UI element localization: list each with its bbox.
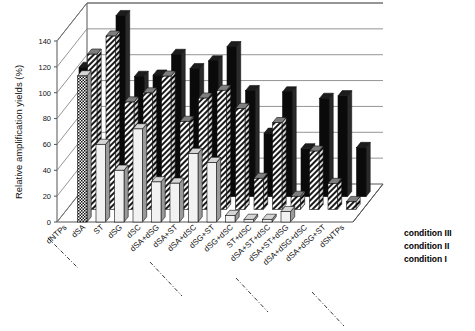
y-tick-labels: 020406080100120140: [38, 37, 57, 227]
leader-line: [236, 278, 268, 312]
bar[interactable]: [207, 157, 221, 222]
gridline-depth: [57, 3, 87, 41]
bar[interactable]: [189, 148, 203, 222]
bar[interactable]: [226, 210, 240, 222]
bar-face: [189, 153, 199, 222]
bar-side: [87, 71, 91, 222]
bar-face: [244, 219, 254, 222]
y-tick-label: 20: [43, 192, 51, 201]
bar-face: [273, 123, 283, 210]
bar[interactable]: [115, 165, 129, 222]
bar[interactable]: [347, 196, 361, 209]
bar-side: [198, 148, 202, 222]
bar[interactable]: [281, 206, 295, 222]
bar-face: [236, 108, 246, 209]
bar[interactable]: [273, 118, 287, 210]
bar-face: [96, 144, 106, 222]
bar-side: [348, 91, 352, 197]
bar-side: [106, 139, 110, 222]
bar[interactable]: [78, 71, 92, 222]
bar-face: [152, 182, 162, 222]
bar-face: [115, 170, 125, 222]
bar-face: [254, 178, 264, 209]
wall-top-edge: [57, 3, 383, 41]
bar-side: [319, 146, 323, 209]
leader-line: [312, 292, 344, 326]
bar-side: [161, 177, 165, 222]
bar-face: [78, 76, 88, 222]
bar-face: [207, 163, 217, 222]
depth-axis-label: condition III: [404, 228, 452, 238]
x-axis-label: dSA: [70, 222, 88, 239]
bars-group: [78, 10, 371, 222]
depth-axis-label: condition I: [404, 254, 447, 264]
bar-face: [310, 151, 320, 209]
bar[interactable]: [170, 178, 184, 222]
bar-face: [263, 219, 273, 222]
x-axis-label: dSG: [106, 223, 124, 240]
bar-face: [133, 129, 143, 222]
bar-face: [281, 212, 291, 222]
bar-side: [366, 142, 370, 196]
bar-side: [143, 124, 147, 222]
y-tick-label: 140: [38, 37, 51, 46]
bar-side: [227, 85, 231, 209]
bar-face: [347, 202, 357, 210]
bar-side: [264, 173, 268, 209]
leader-line: [150, 262, 182, 296]
bar-side: [292, 87, 296, 197]
depth-axis-label: condition II: [404, 241, 449, 251]
bar[interactable]: [133, 124, 147, 222]
leader-line: [48, 238, 78, 268]
bar-face: [226, 216, 236, 222]
bar-side: [282, 118, 286, 210]
depth-axis-labels: condition IIIcondition IIcondition I: [404, 228, 452, 264]
bar-face: [328, 183, 338, 209]
y-tick-label: 120: [38, 63, 51, 72]
y-tick-label: 0: [47, 218, 51, 227]
chart-figure: 020406080100120140Relative amplification…: [0, 0, 475, 331]
bar-side: [217, 157, 221, 222]
y-tick-label: 40: [43, 166, 51, 175]
bar[interactable]: [357, 142, 371, 196]
bar-face: [357, 148, 367, 197]
bar-chart-3d: 020406080100120140Relative amplification…: [0, 0, 475, 331]
bar-face: [170, 183, 180, 222]
bar[interactable]: [328, 178, 342, 209]
bar[interactable]: [263, 214, 277, 222]
bar-face: [301, 149, 311, 197]
bar[interactable]: [96, 139, 110, 222]
bar[interactable]: [254, 173, 268, 209]
y-tick-label: 60: [43, 140, 51, 149]
bar-side: [180, 178, 184, 222]
bar[interactable]: [244, 214, 258, 222]
y-tick-label: 100: [38, 89, 51, 98]
bar[interactable]: [236, 103, 250, 209]
x-axis-labels: dNTPsdSASTdSGdSCdSA+dSGdSA+STdSA+dSCdSG+…: [44, 222, 346, 267]
y-tick-label: 80: [43, 114, 51, 123]
bar-side: [245, 103, 249, 209]
bar-side: [124, 165, 128, 222]
y-axis-title: Relative amplification yields (%): [13, 65, 24, 199]
bar[interactable]: [152, 177, 166, 222]
x-axis-label: ST: [92, 223, 106, 237]
bar[interactable]: [310, 146, 324, 209]
